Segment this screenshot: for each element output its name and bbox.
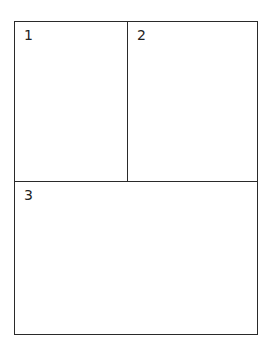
panel-2: 2 <box>128 22 257 182</box>
panel-label: 1 <box>24 27 33 43</box>
panel-1: 1 <box>15 22 128 182</box>
layout-frame: 1 2 3 <box>14 21 258 335</box>
panel-3: 3 <box>15 182 257 334</box>
panel-label: 3 <box>24 187 33 203</box>
panel-label: 2 <box>137 27 146 43</box>
